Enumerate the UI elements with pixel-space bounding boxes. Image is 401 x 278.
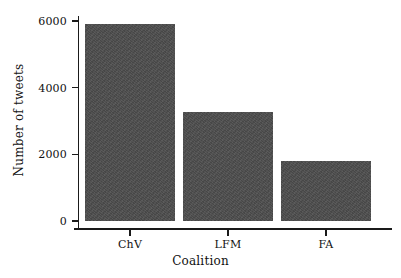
- x-axis-line: [74, 228, 392, 230]
- y-tick-label-4000: 4000: [38, 81, 67, 94]
- bar-fa: [281, 161, 371, 221]
- y-tick-label-2000: 2000: [38, 148, 67, 161]
- y-tick-label-6000: 6000: [38, 14, 67, 27]
- x-tick-chv: [129, 230, 130, 236]
- x-tick-fa: [325, 230, 326, 236]
- x-tick-lfm: [227, 230, 228, 236]
- y-axis-title-text: Number of tweets: [12, 64, 26, 177]
- x-axis-title: Coalition: [0, 254, 401, 268]
- x-tick-label-fa: FA: [318, 238, 333, 251]
- x-tick-label-chv: ChV: [118, 238, 142, 251]
- y-tick-2000: 2000: [72, 154, 78, 155]
- bar-chart: 0 2000 4000 6000 ChV LFM FA Coalition Nu…: [0, 0, 401, 278]
- x-tick-label-lfm: LFM: [215, 238, 242, 251]
- y-tick-0: 0: [72, 220, 78, 221]
- y-tick-6000: 6000: [72, 20, 78, 21]
- y-axis-line: [78, 16, 79, 228]
- bar-lfm: [183, 112, 273, 221]
- y-tick-4000: 4000: [72, 87, 78, 88]
- y-tick-label-0: 0: [60, 215, 67, 228]
- y-axis-title: Number of tweets: [10, 0, 28, 240]
- bar-chv: [85, 24, 175, 221]
